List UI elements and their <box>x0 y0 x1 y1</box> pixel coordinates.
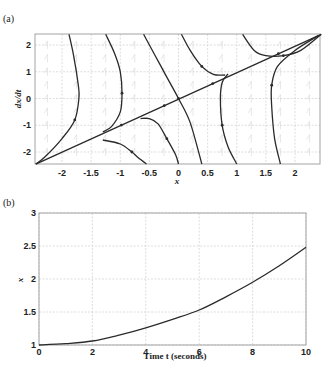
response-curve <box>39 247 306 345</box>
direction-arrow-icon <box>211 82 214 85</box>
direction-arrow-icon <box>165 137 168 140</box>
field-arrow <box>248 54 251 59</box>
x-tick-label: -0.5 <box>142 168 158 178</box>
x-tick-label: 0.5 <box>201 168 214 178</box>
y-axis-label-a: dx/dt <box>13 89 23 108</box>
field-arrow <box>307 81 310 86</box>
direction-arrow-icon <box>200 65 203 68</box>
axis-ticks-b: 024681032.521.51 <box>23 208 311 357</box>
field-arrow <box>161 54 164 59</box>
field-arrow <box>307 135 310 140</box>
direction-arrow-icon <box>277 52 280 55</box>
y-tick-label: 2 <box>26 40 31 50</box>
x-tick-label: -1 <box>116 168 124 178</box>
axis-ticks-a: -2-1.5-1-0.500.511.52210-1-2 <box>23 40 298 178</box>
figure: (a) (b) -2-1.5-1-0.500.511.52210-1-2 x d… <box>0 0 335 384</box>
trajectory <box>181 34 225 75</box>
field-arrow <box>44 54 47 59</box>
field-arrow <box>307 54 310 59</box>
x-tick-label: 10 <box>301 347 311 357</box>
grid-b <box>39 213 306 345</box>
field-arrow <box>74 81 77 86</box>
field-arrow <box>103 54 106 59</box>
y-tick-label: 1 <box>31 340 36 350</box>
field-arrow <box>132 81 135 86</box>
field-arrow <box>74 135 77 140</box>
field-arrow <box>132 54 135 59</box>
field-arrow <box>277 121 280 126</box>
y-tick-label: 3 <box>31 208 36 218</box>
field-arrow <box>277 95 280 100</box>
field-arrow <box>74 108 77 113</box>
field-arrow <box>277 135 280 140</box>
x-tick-label: -1.5 <box>83 168 99 178</box>
y-tick-label: 1.5 <box>23 307 36 317</box>
direction-arrow-icon <box>270 84 273 87</box>
field-arrow <box>103 135 106 140</box>
field-arrow <box>44 108 47 113</box>
direction-arrow-icon <box>163 104 166 107</box>
direction-arrow-icon <box>121 92 124 95</box>
field-arrow <box>132 108 135 113</box>
x-axis-label-a: x <box>174 176 180 186</box>
field-arrow <box>44 81 47 86</box>
direction-arrow-icon <box>282 54 285 57</box>
field-arrow <box>103 108 106 113</box>
y-tick-label: 0 <box>26 94 31 104</box>
field-arrow <box>277 81 280 86</box>
direction-arrow-icon <box>120 124 123 127</box>
field-arrow <box>248 135 251 140</box>
field-arrow <box>190 108 193 113</box>
field-arrow <box>277 41 280 46</box>
y-tick-label: 1 <box>26 67 31 77</box>
field-arrow <box>248 81 251 86</box>
x-tick-label: 2 <box>90 347 95 357</box>
x-of-t-curve <box>39 247 306 345</box>
field-arrow <box>103 81 106 86</box>
direction-arrow-icon <box>221 124 224 127</box>
y-tick-label: 2.5 <box>23 241 36 251</box>
field-arrow <box>277 108 280 113</box>
field-arrow <box>44 135 47 140</box>
x-tick-label: 1.5 <box>260 168 273 178</box>
field-arrow <box>161 135 164 140</box>
field-arrow <box>307 108 310 113</box>
trajectory <box>220 74 236 164</box>
x-tick-label: 0 <box>36 347 41 357</box>
field-arrow <box>161 81 164 86</box>
trajectories <box>36 34 321 164</box>
field-arrow <box>248 108 251 113</box>
panel-a-label: (a) <box>3 13 14 25</box>
field-arrow <box>190 81 193 86</box>
panel-b-label: (b) <box>3 197 15 209</box>
x-tick-label: 8 <box>250 347 255 357</box>
direction-arrow-icon <box>131 151 134 154</box>
y-tick-label: -1 <box>23 120 31 130</box>
x-axis-label-b: Time t (seconds) <box>144 351 207 361</box>
x-tick-label: -2 <box>58 168 66 178</box>
trajectory <box>36 34 79 164</box>
field-arrow <box>277 68 280 73</box>
field-arrow <box>219 54 222 59</box>
field-arrow <box>190 135 193 140</box>
y-tick-label: 2 <box>31 274 36 284</box>
y-axis-label-b: x <box>15 277 25 283</box>
x-tick-label: 1 <box>234 168 239 178</box>
field-arrow <box>161 108 164 113</box>
phase-portrait-plot: -2-1.5-1-0.500.511.52210-1-2 x dx/dt <box>13 34 321 186</box>
time-response-plot: 024681032.521.51 Time t (seconds) x <box>15 208 311 361</box>
field-arrow <box>132 135 135 140</box>
field-arrow <box>219 135 222 140</box>
y-tick-label: -2 <box>23 147 31 157</box>
x-tick-label: 2 <box>292 168 297 178</box>
direction-arrow-icon <box>73 119 76 122</box>
direction-arrow-icon <box>177 97 180 100</box>
